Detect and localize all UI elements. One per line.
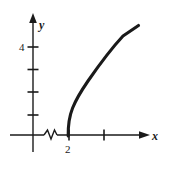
x-axis-arrow-icon (139, 131, 150, 139)
plot-canvas: y x 4 2 (0, 0, 170, 171)
y-axis-arrow-icon (29, 13, 37, 23)
x-tick-label-2: 2 (65, 143, 71, 155)
x-axis-label: x (151, 129, 158, 143)
y-axis-label: y (37, 18, 45, 32)
graph-figure: y x 4 2 (0, 0, 170, 171)
x-axis-break-icon (44, 130, 57, 139)
function-curve (68, 26, 138, 137)
y-tick-label-4: 4 (19, 41, 25, 53)
